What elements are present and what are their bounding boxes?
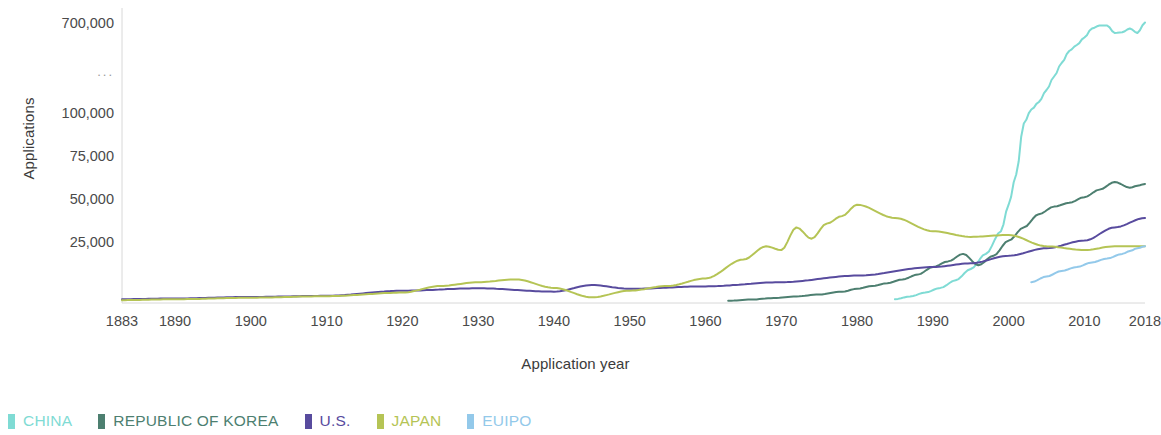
legend-item-label: REPUBLIC OF KOREA bbox=[113, 412, 278, 430]
x-tick-label: 1950 bbox=[614, 313, 646, 329]
x-tick-label: 1940 bbox=[538, 313, 570, 329]
series-line-u-s- bbox=[122, 218, 1145, 299]
x-tick-label: 2018 bbox=[1129, 313, 1161, 329]
x-tick-label: 2010 bbox=[1068, 313, 1100, 329]
x-tick-label: 1900 bbox=[235, 313, 267, 329]
x-tick-label: 1990 bbox=[917, 313, 949, 329]
legend-item-euipo[interactable]: EUIPO bbox=[467, 412, 531, 430]
chart-legend: CHINAREPUBLIC OF KOREAU.S.JAPANEUIPO bbox=[8, 409, 558, 433]
legend-item-u-s-[interactable]: U.S. bbox=[305, 412, 351, 430]
legend-item-label: CHINA bbox=[23, 412, 72, 430]
legend-swatch-icon bbox=[98, 414, 105, 429]
series-line-japan bbox=[122, 205, 1145, 301]
legend-item-label: EUIPO bbox=[482, 412, 531, 430]
legend-item-republic-of-korea[interactable]: REPUBLIC OF KOREA bbox=[98, 412, 278, 430]
x-tick-label: 1980 bbox=[841, 313, 873, 329]
legend-swatch-icon bbox=[305, 414, 312, 429]
x-tick-label: 1910 bbox=[310, 313, 342, 329]
series-lines bbox=[122, 23, 1145, 301]
legend-item-japan[interactable]: JAPAN bbox=[377, 412, 442, 430]
x-tick-label: 1883 bbox=[106, 313, 138, 329]
x-tick-label: 1890 bbox=[159, 313, 191, 329]
legend-swatch-icon bbox=[377, 414, 384, 429]
x-tick-label: 2000 bbox=[992, 313, 1024, 329]
series-line-euipo bbox=[1031, 246, 1145, 282]
x-tick-label: 1960 bbox=[689, 313, 721, 329]
legend-item-china[interactable]: CHINA bbox=[8, 412, 72, 430]
legend-swatch-icon bbox=[8, 414, 15, 429]
x-tick-label: 1920 bbox=[386, 313, 418, 329]
legend-item-label: JAPAN bbox=[392, 412, 442, 430]
x-axis-title: Application year bbox=[0, 355, 1151, 372]
x-tick-label: 1970 bbox=[765, 313, 797, 329]
legend-item-label: U.S. bbox=[320, 412, 351, 430]
legend-swatch-icon bbox=[467, 414, 474, 429]
x-tick-label: 1930 bbox=[462, 313, 494, 329]
